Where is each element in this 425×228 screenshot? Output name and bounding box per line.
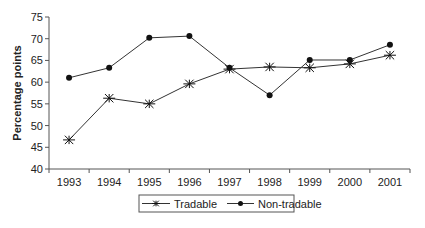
data-point-nontradable [146,35,152,41]
x-tick-label: 1996 [177,176,201,188]
y-tick-label: 60 [31,76,43,88]
legend: Tradable Non-tradable [139,195,322,212]
x-tick-label: 1998 [257,176,281,188]
legend-marker-nontradable [238,201,243,206]
y-tick-label: 65 [31,54,43,66]
x-tick-label: 1993 [57,176,81,188]
y-tick-label: 40 [31,163,43,175]
data-point-nontradable [347,57,353,63]
data-point-tradable [63,136,75,144]
line-chart: 4045505560657075 19931994199519961997199… [0,0,425,228]
y-tick-label: 50 [31,120,43,132]
data-point-nontradable [267,92,273,98]
x-tick-label: 1997 [217,176,241,188]
data-point-tradable [143,100,155,108]
x-tick-label: 1995 [137,176,161,188]
x-tick-label: 2001 [378,176,402,188]
data-point-tradable [183,80,195,88]
data-point-tradable [103,94,115,102]
data-point-tradable [264,63,276,71]
data-point-nontradable [387,42,393,48]
legend-label-nontradable: Non-tradable [258,198,322,210]
x-tick-label: 1999 [297,176,321,188]
data-point-nontradable [227,65,233,71]
y-axis-label: Percentage points [11,45,23,140]
data-point-tradable [304,64,316,72]
y-tick-label: 70 [31,33,43,45]
y-tick-label: 55 [31,98,43,110]
y-tick-label: 75 [31,11,43,23]
data-point-tradable [384,51,396,59]
data-point-nontradable [66,75,72,81]
data-point-nontradable [307,57,313,63]
x-tick-label: 2000 [338,176,362,188]
x-tick-label: 1994 [97,176,121,188]
data-point-nontradable [186,33,192,39]
data-point-nontradable [106,65,112,71]
legend-label-tradable: Tradable [174,198,217,210]
y-tick-label: 45 [31,141,43,153]
